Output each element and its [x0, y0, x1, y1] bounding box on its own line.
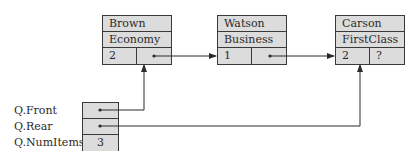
pointer-arrows [0, 0, 418, 151]
arrow-rear-to-carson [100, 65, 360, 126]
arrow-front-to-brown [100, 65, 144, 110]
